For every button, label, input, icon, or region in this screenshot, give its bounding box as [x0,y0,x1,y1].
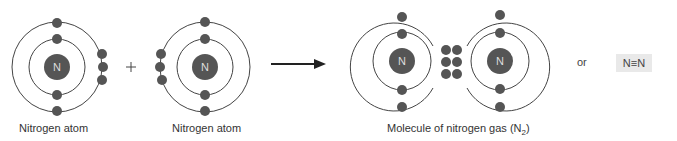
nitrogen-molecule: N N [350,10,549,112]
nucleus-symbol-left: N [398,55,406,67]
nucleus-symbol: N [201,61,209,73]
nucleus-symbol: N [53,61,61,73]
nucleus-symbol-right: N [496,55,504,67]
nitrogen-atom-left: N [12,18,108,116]
or-text: or [577,56,587,68]
label-prefix: Molecule of nitrogen gas (N [387,122,522,134]
nitrogen-atom-right: N [155,17,250,116]
formula-text: N≡N [623,57,645,69]
diagram-canvas: N N [0,0,677,141]
label-nitrogen-molecule: Molecule of nitrogen gas (N2) [387,122,530,137]
label-nitrogen-atom-left: Nitrogen atom [19,122,88,134]
plus-icon [126,62,136,72]
reaction-arrow-icon [271,59,326,69]
label-suffix: ) [526,122,530,134]
structural-formula: N≡N [616,54,652,72]
label-nitrogen-atom-right: Nitrogen atom [172,122,241,134]
